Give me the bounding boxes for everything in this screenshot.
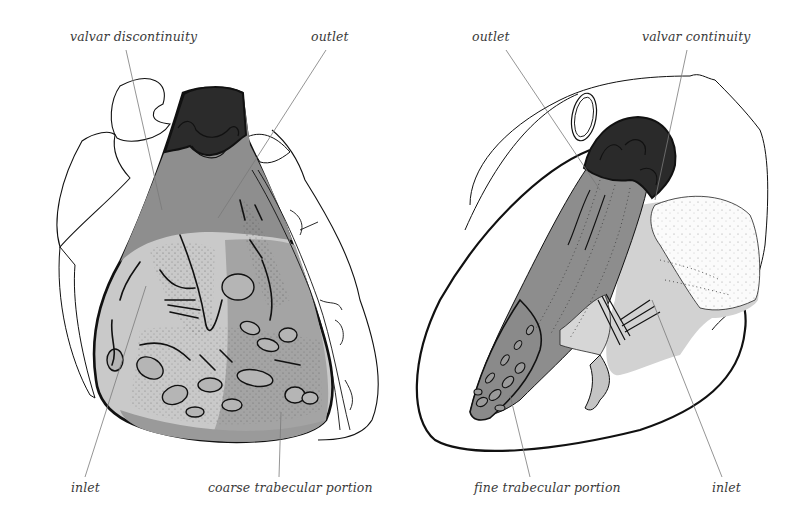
- heart-illustrations: [0, 0, 800, 523]
- label-fine-trabecular-portion: fine trabecular portion: [474, 480, 621, 495]
- label-left-outlet: outlet: [311, 29, 349, 44]
- label-valvar-discontinuity: valvar discontinuity: [70, 29, 197, 44]
- left-heart: [57, 50, 378, 477]
- figure: valvar discontinuity outlet inlet coarse…: [0, 0, 800, 523]
- label-valvar-continuity: valvar continuity: [642, 29, 750, 44]
- label-coarse-trabecular-portion: coarse trabecular portion: [208, 480, 373, 495]
- label-left-inlet: inlet: [71, 480, 100, 495]
- label-right-outlet: outlet: [472, 29, 510, 44]
- right-heart: [417, 50, 768, 477]
- label-right-inlet: inlet: [712, 480, 741, 495]
